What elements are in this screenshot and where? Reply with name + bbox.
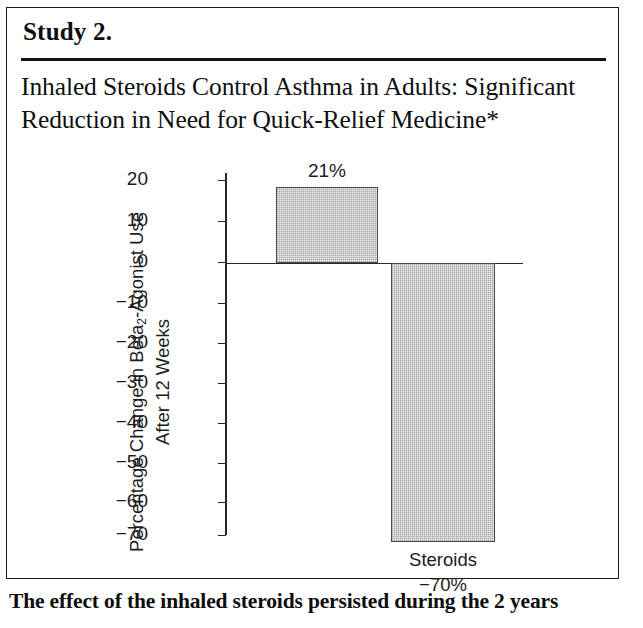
y-tick-mark [218, 463, 226, 465]
y-axis-title: Percentage Change in Beta2-Agonist Use A… [125, 186, 175, 578]
bar-steroids [391, 263, 495, 542]
bar-value-label-positive: 21% [276, 160, 378, 182]
y-axis-spine [225, 173, 227, 535]
y-tick-mark [218, 303, 226, 305]
bottom-caption: The effect of the inhaled steroids persi… [9, 589, 637, 614]
y-tick-mark [218, 221, 226, 223]
y-axis-title-subscript: 2 [135, 318, 149, 325]
bar-chart: 20 10 0 −10 −20 −30 −40 −50 [7, 8, 620, 580]
y-axis-title-text-tail: -Agonist Use [126, 212, 147, 318]
y-tick-mark [218, 383, 226, 385]
y-tick-mark [218, 180, 226, 182]
y-axis-title-line-2: After 12 Weeks [151, 186, 175, 578]
y-axis-title-line-1: Percentage Change in Beta2-Agonist Use [125, 186, 151, 578]
study-panel: Study 2. Inhaled Steroids Control Asthma… [6, 7, 619, 579]
y-axis-title-text: Percentage Change in Beta [126, 325, 147, 552]
bar-category-label: Steroids [381, 547, 505, 572]
y-tick-mark [218, 535, 226, 537]
y-tick-mark [218, 343, 226, 345]
bar-positive [276, 187, 378, 263]
y-tick-mark [218, 423, 226, 425]
y-tick-mark [218, 502, 226, 504]
